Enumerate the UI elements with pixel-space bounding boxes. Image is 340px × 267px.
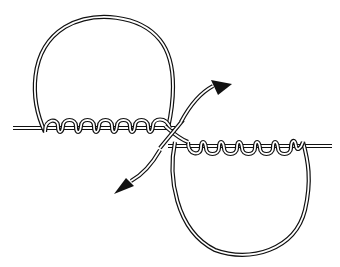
lower-loop [173,142,309,255]
diagram-subject: knot-tying diagram: two loops with wrapp… [0,0,32,1]
arrow-up-right [181,80,232,122]
left-wraps [45,120,170,133]
knot-diagram [0,0,340,267]
arrow-head-up-right-icon [211,80,232,95]
upper-loop [35,17,173,132]
arrow-down-left [114,150,160,194]
